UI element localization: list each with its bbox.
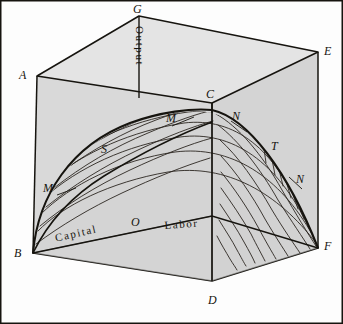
corner-label-c: C xyxy=(206,88,214,100)
corner-label-d: D xyxy=(208,294,217,306)
production-surface-figure: A B C D E F G O M N M N S T Output Capit… xyxy=(0,0,343,324)
origin-label-o: O xyxy=(131,216,140,228)
surface-label-m-left: M xyxy=(43,182,53,194)
axis-label-output: Output xyxy=(134,26,145,66)
corner-label-f: F xyxy=(324,240,332,252)
surface-label-s: S xyxy=(101,143,107,155)
surface-label-n-top: N xyxy=(232,110,240,122)
corner-label-b: B xyxy=(14,247,22,259)
surface-label-t: T xyxy=(271,140,278,152)
surface-label-n-right: N xyxy=(296,173,304,185)
surface-label-m-top: M xyxy=(166,112,176,124)
corner-label-a: A xyxy=(19,69,27,81)
corner-label-e: E xyxy=(324,45,332,57)
corner-label-g: G xyxy=(133,3,142,15)
diagram-canvas xyxy=(0,0,343,324)
